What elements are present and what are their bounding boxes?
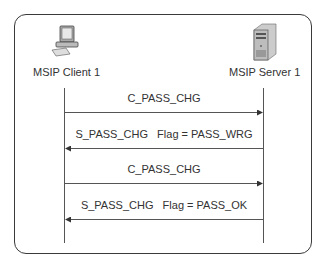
desktop-computer-icon	[52, 26, 78, 56]
server-label: MSIP Server 1	[229, 66, 300, 78]
client-label: MSIP Client 1	[33, 66, 100, 78]
message-1: C_PASS_CHG	[64, 92, 264, 104]
server-tower-icon	[254, 24, 276, 60]
message-3: C_PASS_CHG	[64, 163, 264, 175]
message-4: S_PASS_CHG Flag = PASS_OK	[64, 199, 264, 211]
message-2: S_PASS_CHG Flag = PASS_WRG	[64, 128, 264, 140]
